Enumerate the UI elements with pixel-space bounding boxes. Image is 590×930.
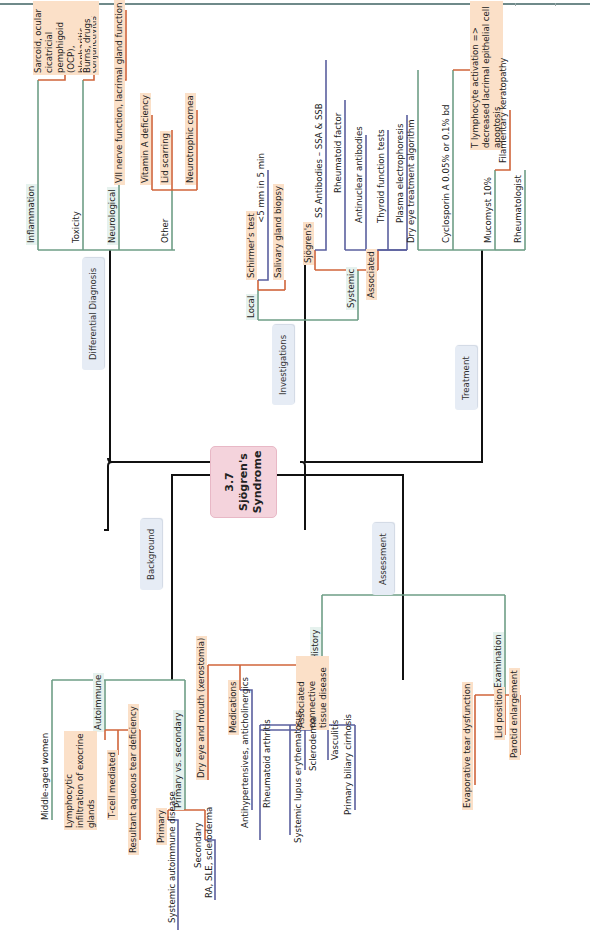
- node-aqueous-tear-deficiency[interactable]: Resultant aqueous tear deficiency: [128, 704, 139, 855]
- branch-differential-diagnosis[interactable]: Differential Diagnosis: [82, 258, 104, 370]
- node-antinuclear-antibodies[interactable]: Antinuclear antibodies: [354, 124, 365, 225]
- node-primary-biliary-cirrhosis[interactable]: Primary biliary cirrhosis: [343, 712, 354, 817]
- node-plasma-electrophoresis[interactable]: Plasma electrophoresis: [395, 122, 406, 225]
- node-dry-eye-mouth[interactable]: Dry eye and mouth (xerostomia): [196, 636, 207, 780]
- node-lid-scarring[interactable]: Lid scarring: [160, 131, 171, 185]
- node-thyroid-tests[interactable]: Thyroid function tests: [376, 127, 387, 225]
- node-secondary[interactable]: Secondary: [193, 820, 204, 870]
- node-schirmer-value[interactable]: <5 mm in 5 min: [256, 151, 267, 225]
- node-inflammation[interactable]: Inflammation: [26, 184, 37, 245]
- node-examination[interactable]: Examination: [493, 632, 504, 690]
- node-ss-antibodies[interactable]: SS Antibodies – SSA & SSB: [314, 101, 325, 220]
- node-ra-sle-scleroderma[interactable]: RA, SLE, scleroderma: [204, 805, 215, 900]
- central-topic[interactable]: 3.7 Sjögren's Syndrome: [210, 446, 277, 518]
- node-autoimmune[interactable]: Autoimmune: [93, 673, 104, 732]
- node-neurotrophic-cornea[interactable]: Neurotrophic cornea: [185, 93, 196, 185]
- node-toxicity[interactable]: Toxicity: [71, 209, 82, 245]
- node-local[interactable]: Local: [246, 294, 257, 320]
- node-lid-position[interactable]: Lid position: [494, 687, 505, 740]
- node-sle[interactable]: Systemic lupus erythematosus: [293, 708, 304, 845]
- node-systemic[interactable]: Systemic: [346, 267, 357, 310]
- node-scleroderma[interactable]: Scleroderma: [308, 715, 319, 773]
- node-other[interactable]: Other: [160, 217, 171, 245]
- node-lymphocytic-infiltration[interactable]: Lymphocytic infiltration of exocrine gla…: [64, 731, 97, 830]
- node-vasculitis[interactable]: Vasculitis: [330, 718, 341, 762]
- node-primary[interactable]: Primary: [156, 808, 167, 845]
- branch-background[interactable]: Background: [140, 519, 162, 590]
- node-salivary-biopsy[interactable]: Salivary gland biopsy: [273, 184, 284, 280]
- node-toxicity-detail[interactable]: Burns, drugs: [82, 17, 93, 75]
- node-evaporative-tear[interactable]: Evaporative tear dysfunction: [462, 682, 473, 810]
- branch-assessment[interactable]: Assessment: [372, 523, 394, 595]
- node-parotid-enlargement[interactable]: Parotid enlargement: [509, 668, 520, 760]
- node-associated[interactable]: Associated: [366, 249, 377, 300]
- node-rheumatoid-arthritis[interactable]: Rheumatoid arthritis: [262, 717, 273, 810]
- node-neurological-detail[interactable]: VII nerve function, lacrimal gland funct…: [114, 0, 125, 185]
- node-neurological[interactable]: Neurological: [107, 187, 118, 245]
- branch-investigations[interactable]: Investigations: [272, 325, 294, 405]
- node-rheumatoid-factor[interactable]: Rheumatoid factor: [333, 111, 344, 195]
- mind-map: 3.7 Sjögren's Syndrome Differential Diag…: [0, 0, 590, 930]
- node-filamentary-keratopathy[interactable]: Filamentary keratopathy: [498, 56, 509, 165]
- node-middle-aged-women[interactable]: Middle-aged women: [40, 731, 51, 822]
- branch-treatment[interactable]: Treatment: [455, 346, 477, 410]
- node-mucomyst[interactable]: Mucomyst 10%: [483, 175, 494, 245]
- node-dry-eye-algorithm[interactable]: Dry eye treatment algorithm: [406, 117, 417, 245]
- node-sjogrens[interactable]: Sjögren's: [303, 222, 314, 265]
- node-medications[interactable]: Medications: [228, 680, 239, 735]
- node-t-cell-mediated[interactable]: T-cell mediated: [107, 750, 118, 820]
- central-title-line1: 3.7 Sjögren's: [223, 447, 251, 517]
- node-antihypertensives[interactable]: Antihypertensives, anticholinergics: [240, 675, 251, 830]
- node-rheumatologist[interactable]: Rheumatologist: [513, 173, 524, 245]
- central-title-line2: Syndrome: [251, 447, 265, 517]
- node-vitamin-a[interactable]: Vitamin A deficiency: [140, 93, 151, 185]
- node-systemic-autoimmune[interactable]: Systemic autoimmune disease: [167, 789, 178, 925]
- node-cyclosporin[interactable]: Cyclosporin A 0.05% or 0.1% bd: [441, 103, 452, 245]
